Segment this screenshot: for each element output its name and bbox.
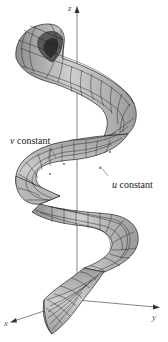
z-axis-arrow-icon bbox=[75, 6, 80, 13]
u-constant-label: u constant bbox=[112, 179, 153, 190]
y-axis-label: y bbox=[152, 312, 156, 322]
x-axis-label: x bbox=[4, 318, 8, 328]
xy-axes bbox=[10, 300, 160, 323]
v-constant-label: v constant bbox=[10, 135, 50, 146]
y-axis-arrow-icon bbox=[153, 305, 160, 310]
x-axis-arrow-icon bbox=[10, 318, 17, 323]
u-constant-text: constant bbox=[117, 179, 153, 190]
helix-tube-figure bbox=[0, 0, 168, 342]
v-constant-text: constant bbox=[14, 135, 50, 146]
z-axis-label: z bbox=[68, 3, 72, 13]
